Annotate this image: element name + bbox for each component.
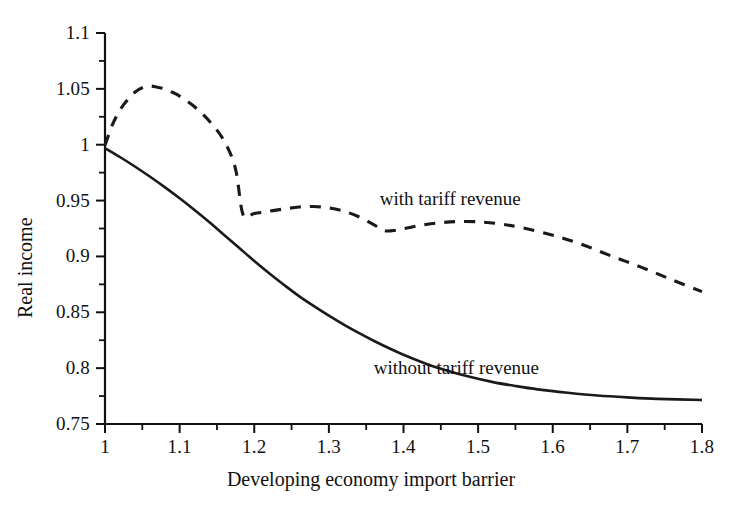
x-tick-label: 1.2 [224, 436, 284, 458]
y-axis-ticks [96, 33, 105, 424]
x-tick-label: 1.1 [150, 436, 210, 458]
data-series-group [105, 86, 702, 400]
x-tick-label: 1.4 [374, 436, 434, 458]
x-tick-label: 1.6 [523, 436, 583, 458]
x-tick-label: 1.8 [672, 436, 732, 458]
y-tick-label: 1.05 [10, 78, 90, 100]
series-label-without-tariff-revenue: without tariff revenue [374, 357, 539, 379]
y-axis-title: Real income [14, 217, 37, 318]
y-tick-label: 0.75 [10, 413, 90, 435]
y-tick-label: 0.95 [10, 190, 90, 212]
chart-figure: 1.11.0510.950.90.850.80.75 11.11.21.31.4… [0, 0, 742, 513]
x-tick-label: 1.7 [597, 436, 657, 458]
series-label-with-tariff-revenue: with tariff revenue [380, 188, 521, 210]
x-axis-ticks [105, 424, 702, 433]
y-tick-label: 1.1 [10, 22, 90, 44]
y-tick-label: 1 [10, 134, 90, 156]
x-tick-label: 1.3 [299, 436, 359, 458]
x-axis-title: Developing economy import barrier [0, 468, 742, 491]
x-tick-label: 1.5 [448, 436, 508, 458]
y-tick-label: 0.8 [10, 357, 90, 379]
x-tick-label: 1 [75, 436, 135, 458]
